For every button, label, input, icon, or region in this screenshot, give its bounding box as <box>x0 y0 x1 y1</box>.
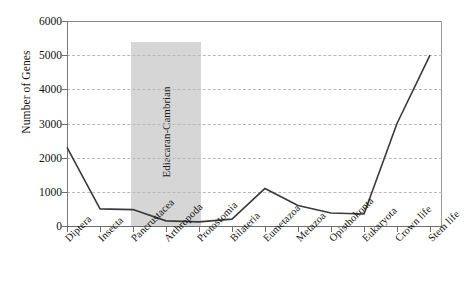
x-tick-mark-5 <box>232 227 233 232</box>
x-tick-mark-1 <box>100 227 101 232</box>
gene-count-series-line <box>0 0 470 294</box>
x-tick-mark-3 <box>166 227 167 232</box>
x-tick-mark-4 <box>199 227 200 232</box>
x-tick-mark-7 <box>298 227 299 232</box>
x-tick-mark-10 <box>397 227 398 232</box>
y-tick-mark-3000 <box>62 124 67 125</box>
x-tick-mark-8 <box>331 227 332 232</box>
x-tick-mark-9 <box>364 227 365 232</box>
series-polyline <box>67 55 430 222</box>
y-tick-mark-5000 <box>62 55 67 56</box>
y-tick-mark-6000 <box>62 21 67 22</box>
x-tick-mark-2 <box>133 227 134 232</box>
y-tick-mark-2000 <box>62 158 67 159</box>
x-tick-mark-6 <box>265 227 266 232</box>
gene-count-line-chart: Number of Genes 010002000300040005000600… <box>0 0 470 294</box>
x-tick-mark-11 <box>430 227 431 232</box>
y-tick-mark-4000 <box>62 89 67 90</box>
y-tick-mark-1000 <box>62 192 67 193</box>
x-tick-mark-0 <box>67 227 68 232</box>
